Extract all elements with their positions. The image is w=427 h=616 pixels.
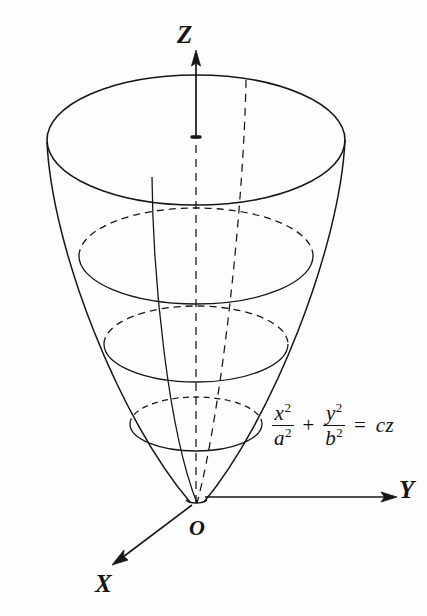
term-1-denominator-exponent: 2 [285, 425, 292, 440]
term-2-denominator-base: b [325, 426, 336, 450]
paraboloid-diagram [0, 0, 427, 616]
x-axis-label: X [95, 571, 112, 596]
term-2-numerator-exponent: 2 [336, 400, 343, 415]
term-1-numerator-exponent: 2 [284, 400, 291, 415]
term-2-numerator-base: y [326, 401, 335, 425]
term-1-numerator: x2 [272, 402, 294, 426]
front-parabola-generatrix [152, 177, 197, 503]
x-axis-line [123, 505, 192, 557]
x-axis-arrowhead [112, 550, 128, 565]
equation-plus-operator: + [303, 413, 315, 438]
origin-label: O [189, 517, 205, 539]
z-axis-label: Z [177, 22, 192, 47]
term-1-numerator-base: x [275, 401, 284, 425]
term-2-denominator-exponent: 2 [336, 425, 343, 440]
term-2-numerator: y2 [323, 402, 345, 426]
term-1-denominator: a2 [271, 426, 295, 449]
surface-equation: x2 a2 + y2 b2 = cz [270, 402, 394, 449]
term-1-denominator-base: a [274, 426, 285, 450]
term-2-denominator: b2 [322, 426, 346, 449]
equation-term-2: y2 b2 [322, 402, 346, 449]
y-axis-label: Y [399, 477, 414, 502]
back-parabola-generatrix [197, 80, 246, 503]
figure-root: Z Y X O x2 a2 + y2 b2 = cz [0, 0, 427, 616]
equation-right-hand-side: cz [376, 413, 394, 438]
cross-section-2-back [104, 306, 288, 344]
equation-equals-sign: = [354, 413, 366, 438]
equation-term-1: x2 a2 [271, 402, 295, 449]
